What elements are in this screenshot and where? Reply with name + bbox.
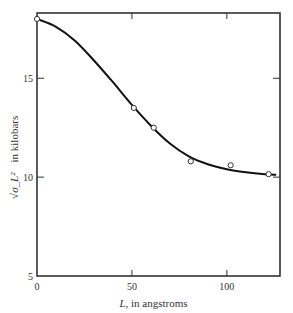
chart: 05010051015L, in angstroms√σ_L²in kiloba… <box>0 0 293 313</box>
x-tick-label: 100 <box>219 281 234 292</box>
plot-frame <box>37 13 280 276</box>
axis-labels: 05010051015L, in angstroms√σ_L²in kiloba… <box>8 73 234 309</box>
data-point <box>151 125 156 130</box>
data-points <box>34 16 271 176</box>
y-axis-symbol: √σ_L² <box>8 172 20 199</box>
curve-path <box>37 19 276 175</box>
data-point <box>34 16 39 21</box>
y-tick-label: 15 <box>23 73 33 84</box>
axis-ticks <box>37 13 280 276</box>
x-tick-label: 50 <box>127 281 137 292</box>
data-point <box>131 105 136 110</box>
plot-border <box>37 13 280 276</box>
fitted-curve <box>37 19 276 175</box>
x-tick-label: 0 <box>35 281 40 292</box>
data-point <box>266 172 271 177</box>
y-tick-label: 10 <box>23 172 33 183</box>
y-axis-title: √σ_L²in kilobars <box>8 116 20 199</box>
y-axis-units: in kilobars <box>8 116 20 163</box>
y-tick-label: 5 <box>28 271 33 282</box>
data-point <box>228 163 233 168</box>
data-point <box>188 159 193 164</box>
x-axis-title: L, in angstroms <box>118 297 187 309</box>
